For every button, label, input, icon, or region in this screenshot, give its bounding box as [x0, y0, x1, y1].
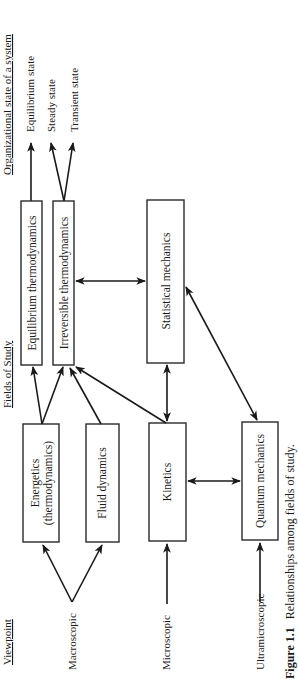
energetics-label-line1: Energetics — [29, 458, 42, 507]
box-quantum-mechanics: Quantum mechanics — [242, 422, 278, 540]
box-energetics: Energetics (thermodynamics) — [23, 424, 59, 542]
state-steady-label: Steady state — [45, 79, 57, 132]
viewpoint-macroscopic-label: Macroscopic — [66, 613, 78, 670]
figure-caption: Figure 1.1 Relationships among fields of… — [283, 444, 297, 679]
box-fluid-dynamics: Fluid dynamics — [86, 424, 119, 542]
state-transient-label: Transient state — [68, 68, 80, 132]
arrow-quantum-statistical — [186, 287, 257, 420]
arrow-macroscopic-to-energetics — [43, 545, 72, 602]
arrow-irreversible-to-steady — [51, 143, 64, 201]
arrow-kinetics-to-irreversible — [76, 367, 166, 423]
arrow-energetics-to-irreversible — [42, 367, 63, 424]
fluid-dynamics-label: Fluid dynamics — [96, 447, 109, 519]
kinetics-label: Kinetics — [161, 462, 173, 501]
statistical-mechanics-label: Statistical mechanics — [160, 232, 172, 329]
equilibrium-thermodynamics-label: Equilibrium thermodynamics — [26, 215, 39, 351]
figure-number: Figure 1.1 — [283, 627, 297, 679]
arrow-macroscopic-to-fluid — [72, 545, 102, 602]
viewpoint-ultramicroscopic-label: Ultramicroscopic — [254, 594, 266, 670]
viewpoint-microscopic-label: Microscopic — [160, 615, 172, 670]
header-viewpoint: Viewpoint — [1, 619, 13, 665]
energetics-label-line2: (thermodynamics) — [42, 441, 55, 525]
figure-caption-text: Relationships among fields of study. — [283, 444, 297, 619]
box-statistical-mechanics: Statistical mechanics — [147, 200, 184, 363]
state-equilibrium-label: Equilibrium state — [24, 56, 36, 132]
quantum-mechanics-label: Quantum mechanics — [254, 433, 266, 528]
box-equilibrium-thermodynamics: Equilibrium thermodynamics — [21, 201, 42, 365]
arrow-irreversible-to-transient — [64, 143, 73, 201]
header-organizational-state: Organizational state of a system — [1, 34, 13, 175]
arrow-energetics-to-equilibrium — [33, 367, 42, 424]
box-irreversible-thermodynamics: Irreversible thermodynamics — [53, 201, 74, 365]
fields-of-study-diagram: Organizational state of a system Fields … — [0, 0, 298, 679]
arrow-fluid-to-irreversible — [70, 368, 101, 424]
box-kinetics: Kinetics — [149, 423, 186, 541]
header-fields-of-study: Fields of Study — [1, 340, 13, 408]
irreversible-thermodynamics-label: Irreversible thermodynamics — [58, 216, 71, 349]
